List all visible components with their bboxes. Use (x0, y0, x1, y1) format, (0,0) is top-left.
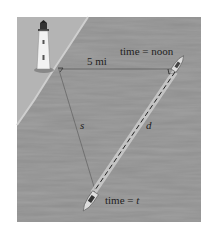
time-t-prefix: time = (105, 194, 136, 206)
time-t-label: time = t (105, 194, 139, 206)
side-d-label: d (146, 119, 152, 131)
time-t-var: t (136, 194, 139, 206)
time-noon-label: time = noon (120, 45, 173, 57)
side-s-label: s (80, 119, 84, 131)
distance-label: 5 mi (87, 55, 107, 67)
